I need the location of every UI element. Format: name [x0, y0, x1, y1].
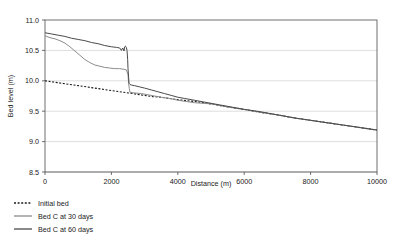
x-tick-label: 4000 [170, 177, 186, 186]
legend-label-2: Bed C at 60 days [38, 225, 94, 234]
y-axis-title: Bed level (m) [6, 75, 15, 117]
data-series-group [45, 33, 377, 130]
legend: Initial bedBed C at 30 daysBed C at 60 d… [14, 199, 94, 234]
y-tick-label: 11.0 [26, 16, 39, 25]
plot-gridlines [45, 50, 377, 172]
y-tick-label: 10.0 [25, 76, 39, 85]
x-tick-label: 2000 [103, 177, 119, 186]
y-tick-label: 8.5 [29, 168, 39, 177]
y-tick-label: 9.0 [29, 137, 39, 146]
x-axis-title: Distance (m) [191, 179, 232, 188]
series-line-1 [45, 36, 377, 130]
series-line-2 [45, 33, 377, 130]
x-tick-label: 10000 [367, 177, 387, 186]
y-tick-label: 9.5 [29, 107, 39, 116]
y-axis-ticks: 8.59.09.510.010.511.0 [25, 16, 45, 177]
y-tick-label: 10.5 [25, 46, 39, 55]
legend-label-1: Bed C at 30 days [38, 212, 94, 221]
legend-label-0: Initial bed [38, 199, 69, 208]
x-tick-label: 8000 [303, 177, 319, 186]
x-tick-label: 0 [43, 177, 47, 186]
bed-level-chart: 8.59.09.510.010.511.0 020004000600080001… [0, 0, 395, 237]
x-tick-label: 6000 [236, 177, 252, 186]
